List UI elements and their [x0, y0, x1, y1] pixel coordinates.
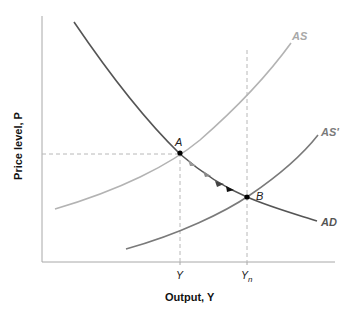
- tick-yn-subscript: n: [248, 275, 252, 284]
- tick-y-label: Y: [176, 269, 183, 281]
- point-a-label: A: [175, 136, 182, 148]
- arrow-icon: [215, 181, 224, 187]
- arrow-icon: [203, 171, 211, 177]
- point-b-label: B: [256, 190, 263, 202]
- tick-yn-main: Y: [241, 269, 248, 281]
- y-axis-title: Price level, P: [12, 106, 24, 186]
- point-a-marker: [177, 150, 182, 155]
- as-curve: [55, 43, 291, 209]
- tick-yn-label: Yn: [241, 269, 252, 284]
- x-axis-title: Output, Y: [165, 291, 214, 303]
- as-prime-label: AS': [321, 126, 339, 138]
- point-b-marker: [244, 194, 249, 199]
- ad-label: AD: [321, 216, 337, 228]
- ad-curve: [74, 22, 317, 221]
- chart-canvas: [0, 0, 364, 311]
- as-prime-curve: [126, 135, 318, 249]
- as-label: AS: [292, 30, 307, 42]
